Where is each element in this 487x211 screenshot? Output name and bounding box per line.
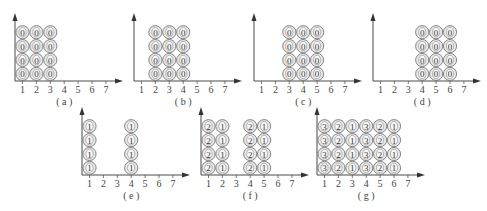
cell-value: 2 bbox=[336, 136, 341, 146]
stack-cell: 0 bbox=[430, 67, 443, 80]
x-tick-label: 1 bbox=[139, 84, 144, 95]
cell-value: 0 bbox=[20, 56, 25, 66]
cell-value: 0 bbox=[20, 69, 25, 79]
cell-value: 0 bbox=[153, 28, 158, 38]
cell-value: 0 bbox=[167, 42, 172, 52]
cell-value: 1 bbox=[392, 150, 397, 160]
stack-cell: 1 bbox=[125, 134, 138, 147]
x-axis-arrow-icon bbox=[354, 79, 362, 84]
stack-cell: 3 bbox=[360, 147, 373, 160]
x-tick-label: 6 bbox=[276, 178, 281, 189]
stack-cell: 0 bbox=[443, 67, 456, 80]
x-tick-label: 6 bbox=[209, 84, 214, 95]
stack-cell: 2 bbox=[374, 120, 387, 133]
cell-value: 0 bbox=[301, 56, 306, 66]
x-axis-arrow-icon bbox=[417, 173, 425, 178]
x-tick-label: 2 bbox=[336, 178, 341, 189]
stack-cell: 3 bbox=[360, 134, 373, 147]
cell-value: 0 bbox=[153, 56, 158, 66]
y-axis-arrow-icon bbox=[80, 107, 85, 115]
stack-cell: 2 bbox=[332, 161, 345, 174]
cell-value: 0 bbox=[315, 69, 320, 79]
cell-value: 0 bbox=[434, 28, 439, 38]
cell-value: 1 bbox=[87, 163, 92, 173]
x-tick-label: 4 bbox=[364, 178, 369, 189]
y-axis-arrow-icon bbox=[315, 107, 320, 115]
stack-cell: 3 bbox=[360, 161, 373, 174]
x-tick-label: 6 bbox=[448, 84, 453, 95]
stack-cell: 0 bbox=[16, 26, 29, 39]
x-tick-label: 2 bbox=[273, 84, 278, 95]
cell-value: 0 bbox=[315, 56, 320, 66]
y-axis-arrow-icon bbox=[199, 107, 204, 115]
y-axis-arrow-icon bbox=[252, 13, 257, 21]
cell-value: 0 bbox=[434, 56, 439, 66]
x-tick-label: 6 bbox=[90, 84, 95, 95]
x-tick-label: 3 bbox=[48, 84, 53, 95]
cell-value: 1 bbox=[392, 122, 397, 132]
stack-cell: 1 bbox=[125, 161, 138, 174]
cell-value: 1 bbox=[350, 136, 355, 146]
cell-value: 0 bbox=[48, 69, 53, 79]
panel-caption: ( g ) bbox=[358, 190, 375, 202]
cell-value: 2 bbox=[248, 150, 253, 160]
cell-value: 0 bbox=[315, 42, 320, 52]
panel-g: 1234567( g )333322221111333322221111 bbox=[315, 107, 426, 202]
cell-value: 2 bbox=[248, 163, 253, 173]
x-tick-label: 4 bbox=[181, 84, 186, 95]
stack-cell: 1 bbox=[387, 134, 400, 147]
stack-cell: 0 bbox=[149, 26, 162, 39]
cell-value: 0 bbox=[34, 69, 39, 79]
cell-value: 0 bbox=[420, 56, 425, 66]
stack-cell: 1 bbox=[258, 147, 271, 160]
cell-value: 1 bbox=[262, 150, 267, 160]
stack-cell: 2 bbox=[332, 120, 345, 133]
stack-cell: 0 bbox=[430, 26, 443, 39]
stack-cell: 1 bbox=[346, 120, 359, 133]
panel-b: 1234567( b )000000000000 bbox=[132, 13, 243, 108]
panel-caption: ( b ) bbox=[175, 96, 192, 108]
x-tick-label: 3 bbox=[287, 84, 292, 95]
cell-value: 0 bbox=[287, 42, 292, 52]
stack-cell: 0 bbox=[297, 40, 310, 53]
cell-value: 0 bbox=[167, 69, 172, 79]
x-tick-label: 1 bbox=[378, 84, 383, 95]
stack-cell: 1 bbox=[387, 161, 400, 174]
stack-cell: 1 bbox=[83, 134, 96, 147]
stack-cell: 0 bbox=[430, 53, 443, 66]
y-axis-arrow-icon bbox=[13, 13, 18, 21]
stack-cell: 0 bbox=[416, 40, 429, 53]
x-tick-label: 4 bbox=[248, 178, 253, 189]
panel-caption: ( c ) bbox=[295, 96, 311, 108]
cell-value: 0 bbox=[48, 56, 53, 66]
stack-cell: 3 bbox=[318, 147, 331, 160]
cell-value: 0 bbox=[315, 28, 320, 38]
stack-cell: 0 bbox=[311, 67, 324, 80]
x-axis-arrow-icon bbox=[301, 173, 309, 178]
cell-value: 0 bbox=[34, 42, 39, 52]
stack-cell: 1 bbox=[216, 134, 229, 147]
cell-value: 0 bbox=[34, 56, 39, 66]
x-tick-label: 7 bbox=[405, 178, 410, 189]
panel-caption: ( f ) bbox=[243, 190, 258, 202]
x-axis-arrow-icon bbox=[234, 79, 242, 84]
cell-value: 1 bbox=[87, 150, 92, 160]
cell-value: 1 bbox=[129, 163, 134, 173]
stack-cell: 3 bbox=[318, 161, 331, 174]
x-axis-arrow-icon bbox=[473, 79, 481, 84]
cell-value: 0 bbox=[287, 28, 292, 38]
cell-value: 1 bbox=[392, 136, 397, 146]
cell-value: 0 bbox=[20, 28, 25, 38]
stack-cell: 0 bbox=[416, 26, 429, 39]
x-tick-label: 2 bbox=[101, 178, 106, 189]
cell-value: 1 bbox=[220, 122, 225, 132]
stack-cell: 0 bbox=[297, 53, 310, 66]
stack-cell: 2 bbox=[202, 147, 215, 160]
stack-cell: 2 bbox=[202, 120, 215, 133]
cell-value: 3 bbox=[322, 122, 327, 132]
stack-cell: 0 bbox=[430, 40, 443, 53]
x-tick-label: 7 bbox=[170, 178, 175, 189]
stack-cell: 0 bbox=[16, 53, 29, 66]
stack-cell: 0 bbox=[163, 26, 176, 39]
panel-f: 1234567( f )2222111122221111 bbox=[199, 107, 310, 202]
